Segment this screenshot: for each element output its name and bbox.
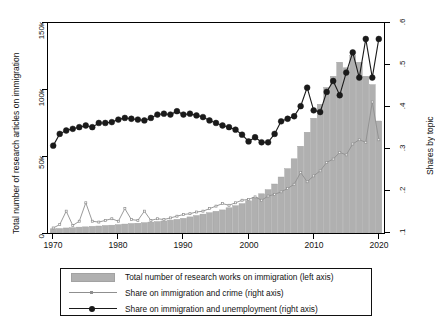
crime-marker-icon <box>90 291 93 294</box>
x-tick-1990: 1990 <box>163 240 203 250</box>
legend-label-total-works: Total number of research works on immigr… <box>119 272 333 282</box>
legend-label-unemployment: Share on immigration and unemployment (r… <box>119 304 318 314</box>
x-tick-2000: 2000 <box>229 240 269 250</box>
unemployment-marker-icon <box>89 306 95 312</box>
x-tick-2010: 2010 <box>294 240 334 250</box>
legend-key-bar <box>67 270 119 284</box>
chart-legend: Total number of research works on immigr… <box>60 268 372 316</box>
crime-line-icon <box>69 292 117 293</box>
x-tick-2020: 2020 <box>359 240 399 250</box>
legend-item-total-works: Total number of research works on immigr… <box>61 269 371 285</box>
legend-item-unemployment: Share on immigration and unemployment (r… <box>61 301 371 317</box>
legend-key-unemployment-line <box>67 302 119 316</box>
x-tick-1980: 1980 <box>98 240 138 250</box>
legend-label-crime: Share on immigration and crime (right ax… <box>119 288 284 298</box>
bar-swatch-icon <box>71 273 115 282</box>
legend-key-crime-line <box>67 286 119 300</box>
legend-item-crime: Share on immigration and crime (right ax… <box>61 285 371 301</box>
x-tick-1970: 1970 <box>33 240 73 250</box>
